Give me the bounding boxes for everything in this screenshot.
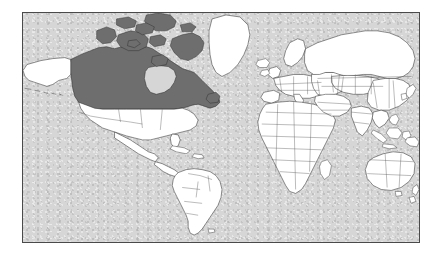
region-hispaniola [192, 154, 204, 159]
region-scandinavia [284, 39, 306, 67]
region-british-isles [268, 67, 281, 79]
region-india [351, 106, 373, 136]
region-papua-new-guinea [405, 137, 419, 147]
region-iceland [256, 59, 270, 68]
region-australia [365, 152, 415, 191]
region-florida [170, 134, 180, 148]
region-java [382, 144, 397, 149]
region-borneo [386, 128, 402, 139]
region-madagascar [320, 160, 332, 180]
region-greenland [209, 15, 250, 76]
region-melville-island [117, 17, 137, 29]
region-alaska [23, 58, 73, 87]
region-arctic-islet-a [180, 23, 196, 32]
region-southampton-island [151, 55, 168, 67]
region-tasmania [395, 191, 402, 196]
world-map-figure: .land{fill:#ffffff;stroke:#333333;stroke… [22, 12, 420, 243]
region-africa [258, 101, 336, 193]
world-map-svg: .land{fill:#ffffff;stroke:#333333;stroke… [23, 13, 419, 242]
region-south-america [172, 169, 222, 235]
region-central-america [154, 162, 178, 177]
region-cuba [170, 146, 190, 154]
region-aleutian-islands [25, 88, 63, 95]
region-baffin-island [170, 33, 204, 61]
region-new-zealand [412, 185, 419, 196]
region-prince-of-wales-island [149, 35, 166, 47]
region-russia [305, 31, 415, 79]
region-ireland [260, 70, 270, 77]
region-philippines [389, 114, 399, 125]
region-iberia [261, 90, 280, 103]
region-sumatra [371, 130, 387, 143]
region-new-zealand-south [409, 196, 416, 203]
region-banks-island [97, 27, 117, 44]
region-falkland-islands [208, 229, 215, 233]
region-southeast-asia [372, 110, 389, 128]
